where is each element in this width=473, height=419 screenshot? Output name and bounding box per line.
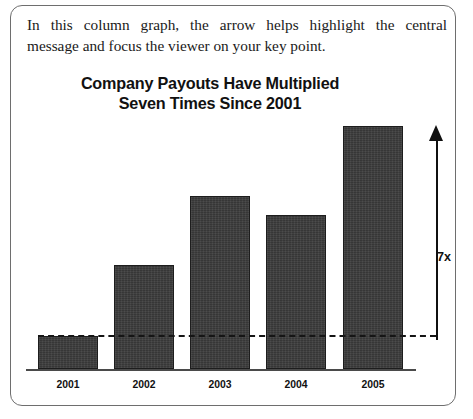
arrow-shaft	[436, 139, 438, 340]
bar-2002	[114, 265, 174, 369]
growth-arrow-icon	[422, 125, 452, 340]
x-axis-label-2004: 2004	[258, 379, 334, 390]
bar-2005	[343, 126, 403, 369]
bar-2001	[38, 336, 98, 369]
baseline-reference-line	[38, 335, 436, 337]
screenshot-root: In this column graph, the arrow helps hi…	[0, 0, 473, 419]
x-axis-label-2001: 2001	[30, 379, 106, 390]
column-chart: Company Payouts Have Multiplied Seven Ti…	[10, 5, 456, 406]
x-axis-label-2003: 2003	[182, 379, 258, 390]
growth-arrow-label: 7x	[437, 250, 451, 264]
bar-2004	[266, 215, 326, 369]
x-axis-label-2005: 2005	[335, 379, 411, 390]
plot-area: 2001 2002 2003 2004 2005	[10, 5, 456, 406]
x-axis-line	[26, 369, 416, 371]
bar-2003	[190, 196, 250, 369]
x-axis-label-2002: 2002	[106, 379, 182, 390]
